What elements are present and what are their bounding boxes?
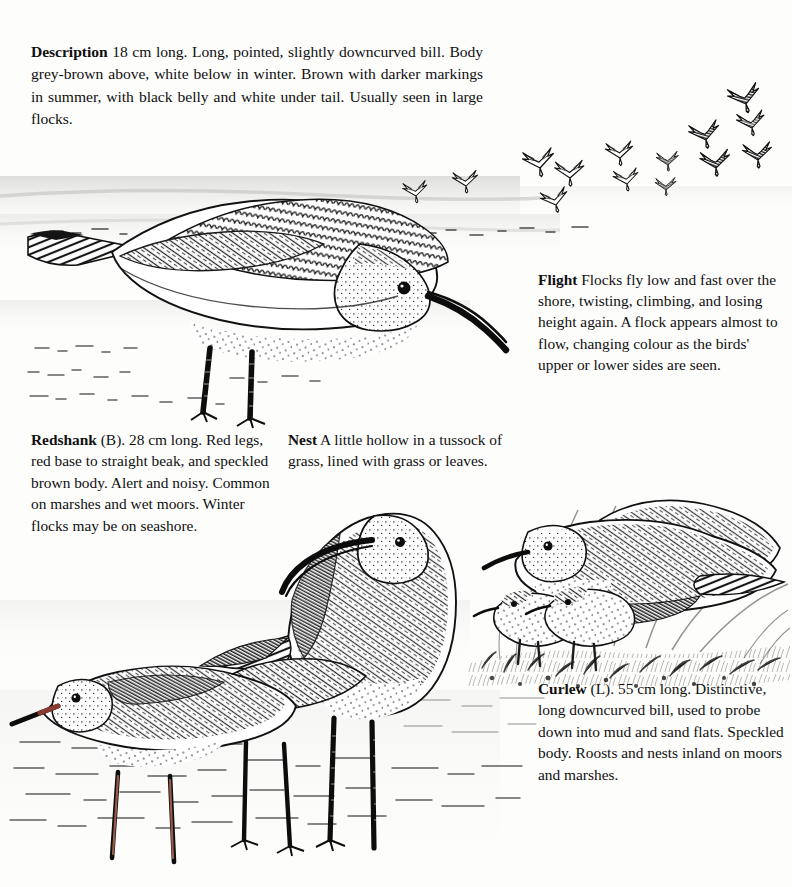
redshank-lead-label: Redshank — [31, 431, 97, 448]
nest-lead-label: Nest — [288, 431, 317, 448]
dunlin-chick-right — [526, 587, 635, 670]
description-lead-label: Description — [31, 43, 108, 60]
dunlin-winter-feeding — [28, 199, 506, 428]
field-guide-page: Description 18 cm long. Long, pointed, s… — [0, 0, 792, 887]
redshank-text-block: Redshank (B). 28 cm long. Red legs, red … — [31, 429, 271, 536]
description-text-block: Description 18 cm long. Long, pointed, s… — [31, 41, 483, 131]
flight-lead-label: Flight — [538, 271, 577, 288]
nest-body: A little hollow in a tussock of grass, l… — [288, 431, 502, 469]
curlew-text-block: Curlew (L). 55 cm long. Distinctive, lon… — [538, 678, 788, 785]
curlew-standing — [216, 514, 456, 851]
dunlin-pair-with-chicks — [462, 452, 792, 688]
curlew-lead-label: Curlew — [538, 680, 587, 697]
wet-sand-background — [0, 600, 544, 870]
dunlin-chick-left — [474, 591, 577, 666]
redshank-standing — [12, 638, 366, 862]
flight-text-block: Flight Flocks fly low and fast over the … — [538, 269, 784, 375]
nest-text-block: Nest A little hollow in a tussock of gra… — [288, 429, 503, 472]
